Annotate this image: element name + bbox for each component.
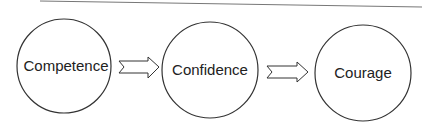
- arrow-right-icon: [267, 62, 308, 82]
- node-courage: Courage: [315, 25, 411, 121]
- top-rule: [40, 1, 422, 7]
- confidence-label: Confidence: [172, 61, 248, 78]
- courage-label: Courage: [334, 64, 392, 81]
- arrow-competence-to-confidence: [119, 57, 159, 78]
- diagram-canvas: Competence Confidence Courage: [0, 0, 432, 133]
- node-competence: Competence: [17, 19, 111, 113]
- competence-label: Competence: [23, 57, 108, 74]
- node-confidence: Confidence: [162, 22, 258, 118]
- arrow-right-icon: [119, 57, 159, 78]
- arrow-confidence-to-courage: [267, 62, 308, 82]
